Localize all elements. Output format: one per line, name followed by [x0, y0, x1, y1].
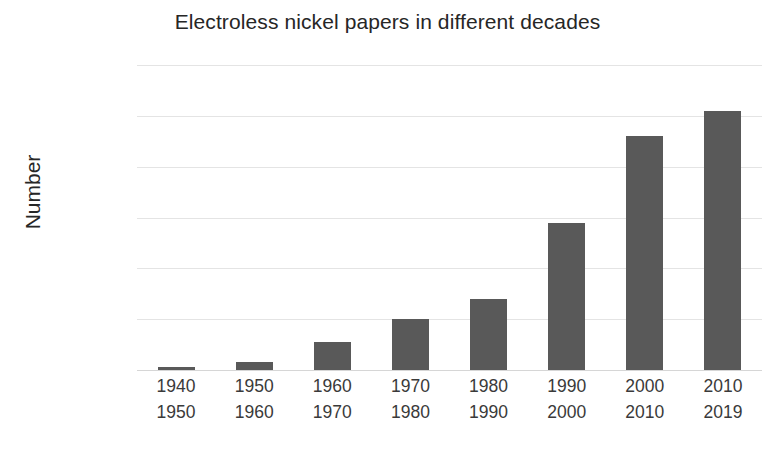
bar[interactable] — [470, 299, 507, 370]
x-axis-tick-line: 1980 — [450, 373, 528, 399]
y-axis-title: Number — [21, 112, 45, 272]
x-axis-tick-label: 20002010 — [606, 373, 684, 425]
x-axis-tick-line: 2010 — [606, 399, 684, 425]
x-axis-tick-label: 19801990 — [450, 373, 528, 425]
gridline — [137, 268, 762, 269]
x-axis-tick-line: 1940 — [137, 373, 215, 399]
x-axis-tick-line: 1970 — [293, 399, 371, 425]
x-axis-tick-line: 2000 — [528, 399, 606, 425]
x-axis-tick-label: 19902000 — [528, 373, 606, 425]
x-axis-tick-line: 1990 — [450, 399, 528, 425]
x-axis-tick-line: 2019 — [684, 399, 762, 425]
bar[interactable] — [704, 111, 741, 370]
x-axis-tick-line: 1970 — [371, 373, 449, 399]
x-axis-tick-label: 19601970 — [293, 373, 371, 425]
x-axis-tick-line: 1960 — [215, 399, 293, 425]
bar[interactable] — [626, 136, 663, 370]
plot-area: 0500010000150002000025000300001940195019… — [137, 65, 762, 370]
x-axis-tick-line: 1950 — [137, 399, 215, 425]
x-axis-tick-label: 19501960 — [215, 373, 293, 425]
x-axis-tick-label: 19401950 — [137, 373, 215, 425]
gridline — [137, 116, 762, 117]
gridline — [137, 167, 762, 168]
bar[interactable] — [236, 362, 273, 370]
x-axis-tick-line: 1960 — [293, 373, 371, 399]
gridline — [137, 370, 762, 371]
bar[interactable] — [392, 319, 429, 370]
bar[interactable] — [548, 223, 585, 370]
x-axis-tick-line: 2010 — [684, 373, 762, 399]
bar[interactable] — [158, 367, 195, 370]
chart-title: Electroless nickel papers in different d… — [0, 10, 775, 34]
gridline — [137, 218, 762, 219]
x-axis-tick-label: 19701980 — [371, 373, 449, 425]
gridline — [137, 65, 762, 66]
x-axis-tick-line: 1990 — [528, 373, 606, 399]
x-axis-tick-line: 1950 — [215, 373, 293, 399]
x-axis-tick-line: 1980 — [371, 399, 449, 425]
bar-chart: Electroless nickel papers in different d… — [0, 0, 775, 457]
x-axis-tick-label: 20102019 — [684, 373, 762, 425]
gridline — [137, 319, 762, 320]
bar[interactable] — [314, 342, 351, 370]
x-axis-tick-line: 2000 — [606, 373, 684, 399]
